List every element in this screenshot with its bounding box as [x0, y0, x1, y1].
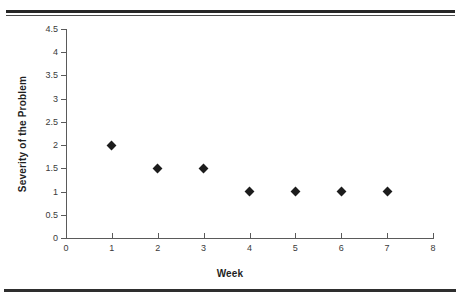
y-tick-mark	[61, 99, 66, 100]
data-point-marker	[382, 187, 392, 197]
x-axis-right-cap	[433, 233, 434, 238]
y-tick-mark	[61, 75, 66, 76]
y-tick-label: 3.5	[30, 71, 58, 80]
y-tick-mark	[61, 52, 66, 53]
x-tick-label: 8	[423, 244, 443, 253]
x-tick-mark	[158, 233, 159, 238]
y-tick-label: 0	[30, 234, 58, 243]
y-tick-label: 4	[30, 48, 58, 57]
x-axis-line	[66, 238, 434, 239]
x-tick-mark	[295, 233, 296, 238]
y-tick-label: 2.5	[30, 118, 58, 127]
data-point-marker	[245, 187, 255, 197]
bottom-rule	[4, 289, 456, 292]
x-tick-label: 4	[240, 244, 260, 253]
y-tick-mark	[61, 122, 66, 123]
y-tick-mark	[61, 29, 66, 30]
data-point-marker	[336, 187, 346, 197]
y-axis-title: Severity of the Problem	[17, 76, 28, 192]
x-tick-label: 7	[377, 244, 397, 253]
x-tick-label: 3	[194, 244, 214, 253]
data-point-marker	[107, 140, 117, 150]
y-tick-label: 1.5	[30, 164, 58, 173]
y-tick-mark	[61, 192, 66, 193]
y-tick-mark	[61, 238, 66, 239]
data-point-marker	[290, 187, 300, 197]
x-tick-mark	[112, 233, 113, 238]
x-tick-label: 2	[148, 244, 168, 253]
scatter-plot: 00.511.522.533.544.5 012345678	[0, 0, 460, 301]
y-tick-label: 0.5	[30, 211, 58, 220]
x-tick-label: 1	[102, 244, 122, 253]
y-tick-mark	[61, 215, 66, 216]
data-point-marker	[199, 163, 209, 173]
x-axis-title: Week	[0, 268, 460, 279]
x-tick-mark	[341, 233, 342, 238]
y-tick-label: 1	[30, 188, 58, 197]
x-tick-mark	[250, 233, 251, 238]
x-tick-mark	[204, 233, 205, 238]
x-tick-label: 6	[331, 244, 351, 253]
y-tick-mark	[61, 168, 66, 169]
x-tick-label: 0	[56, 244, 76, 253]
x-tick-mark	[387, 233, 388, 238]
y-axis-line	[66, 29, 67, 239]
x-tick-label: 5	[285, 244, 305, 253]
data-point-marker	[153, 163, 163, 173]
figure-container: 00.511.522.533.544.5 012345678 Severity …	[0, 0, 460, 301]
y-tick-label: 2	[30, 141, 58, 150]
y-tick-label: 4.5	[30, 25, 58, 34]
y-tick-mark	[61, 145, 66, 146]
y-tick-label: 3	[30, 95, 58, 104]
y-axis-title-wrap: Severity of the Problem	[14, 29, 30, 239]
